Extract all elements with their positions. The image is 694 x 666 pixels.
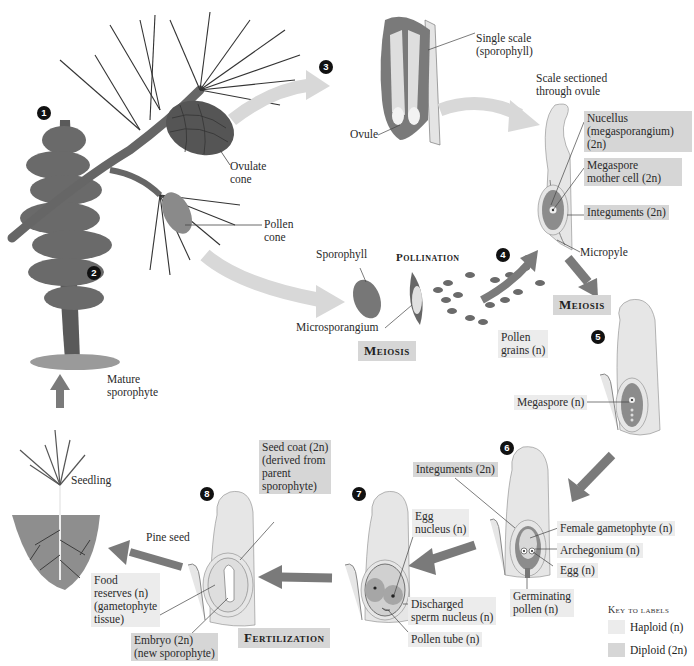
- label-female-gametophyte: Female gametophyte (n): [557, 521, 675, 536]
- label-pollen-cone: Pollen cone: [264, 218, 293, 244]
- step-6-badge: 6: [500, 441, 514, 455]
- label-pollen-tube: Pollen tube (n): [408, 632, 482, 647]
- label-micropyle: Micropyle: [580, 246, 628, 259]
- ovule-section-gametophyte: [490, 447, 550, 578]
- haploid-label: Haploid (n): [630, 621, 683, 633]
- label-megaspore-mother-cell: Megaspore mother cell (2n): [584, 158, 682, 186]
- label-egg-nucleus: Egg nucleus (n): [412, 509, 469, 537]
- haploid-swatch: [608, 620, 625, 634]
- stage-pollination: Pollination: [396, 251, 460, 263]
- single-scale-sporophyll: [381, 17, 440, 145]
- label-egg: Egg (n): [557, 563, 598, 578]
- ovulate-cone: [158, 92, 242, 165]
- step-4-badge: 4: [496, 248, 510, 262]
- step-8-badge: 8: [200, 487, 214, 501]
- diploid-label: Diploid (2n): [630, 644, 687, 656]
- arrow-step-2: [205, 255, 320, 300]
- seedling: [12, 430, 100, 590]
- label-discharged-sperm: Discharged sperm nucleus (n): [408, 597, 496, 625]
- stage-fertilization: Fertilization: [238, 628, 330, 648]
- label-scale-sectioned: Scale sectioned through ovule: [536, 72, 607, 98]
- step-3-badge: 3: [319, 60, 333, 74]
- label-embryo: Embryo (2n) (new sporophyte): [131, 633, 218, 661]
- pine-seed: [188, 491, 255, 626]
- ovule-section-megaspore: [600, 299, 660, 435]
- label-integuments-step6: Integuments (2n): [413, 462, 498, 477]
- diploid-swatch: [608, 643, 625, 657]
- pine-life-cycle-diagram: 1 2 3 4 5 6 7 8 Ovulate cone Pollen cone…: [0, 0, 694, 666]
- label-seed-coat: Seed coat (2n) (derived from parent spor…: [259, 440, 331, 494]
- label-microsporangium: Microsporangium: [296, 321, 378, 334]
- step-1-badge: 1: [37, 106, 51, 120]
- arrow-step-4: [482, 262, 530, 300]
- step-2-badge: 2: [87, 266, 101, 280]
- label-ovulate-cone: Ovulate cone: [230, 160, 266, 186]
- label-integuments-top: Integuments (2n): [584, 205, 669, 220]
- arrow-step-3: [232, 85, 310, 120]
- label-mature-sporophyte: Mature sporophyte: [107, 373, 158, 399]
- key-row-haploid: Haploid (n): [608, 620, 683, 634]
- label-archegonium: Archegonium (n): [557, 543, 643, 558]
- stage-meiosis-right: Meiosis: [553, 295, 611, 315]
- label-germinating-pollen: Germinating pollen (n): [510, 589, 574, 617]
- label-pollen-grains: Pollen grains (n): [498, 330, 548, 358]
- label-nucellus: Nucellus (megasporangium) (2n): [584, 111, 692, 152]
- ovule-section-top: [538, 104, 572, 250]
- label-single-scale: Single scale (sporophyll): [476, 32, 533, 58]
- label-pine-seed: Pine seed: [146, 531, 190, 544]
- label-sporophyll: Sporophyll: [316, 248, 367, 261]
- label-megaspore: Megaspore (n): [514, 395, 587, 410]
- key-row-diploid: Diploid (2n): [608, 643, 687, 657]
- ovule-section-fertilization: [345, 491, 410, 622]
- key-title: Key to labels: [608, 604, 669, 615]
- step-5-badge: 5: [591, 330, 605, 344]
- sporophyll: [348, 276, 386, 322]
- step-7-badge: 7: [352, 487, 366, 501]
- stage-meiosis-left: Meiosis: [358, 341, 416, 361]
- label-seedling: Seedling: [71, 474, 111, 487]
- microsporangium: [410, 272, 423, 325]
- label-food-reserves: Food reserves (n) (gametophyte tissue): [91, 573, 160, 627]
- mature-sporophyte-tree: [20, 120, 120, 370]
- label-ovule: Ovule: [350, 128, 378, 141]
